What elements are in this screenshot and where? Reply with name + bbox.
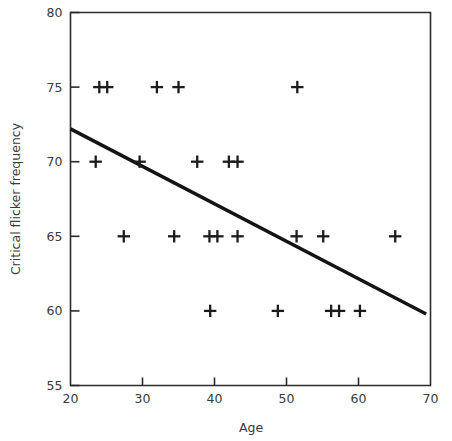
x-tick-label: 60 bbox=[351, 391, 367, 406]
x-tick-label: 50 bbox=[279, 391, 295, 406]
scatter-chart: 556065707580 203040506070 Age Critical f… bbox=[0, 0, 452, 441]
y-tick-label: 80 bbox=[47, 5, 63, 20]
x-tick-label: 70 bbox=[423, 391, 439, 406]
y-tick-label: 70 bbox=[47, 154, 63, 169]
y-tick-label: 55 bbox=[47, 378, 63, 393]
y-tick-label: 75 bbox=[47, 80, 63, 95]
y-tick-label: 60 bbox=[47, 303, 63, 318]
x-tick-label: 40 bbox=[207, 391, 223, 406]
y-tick-label: 65 bbox=[47, 229, 63, 244]
x-tick-label: 30 bbox=[135, 391, 151, 406]
y-axis-title: Critical flicker frequency bbox=[8, 122, 23, 275]
x-tick-label: 20 bbox=[63, 391, 79, 406]
chart-background bbox=[0, 0, 452, 441]
x-axis-title: Age bbox=[239, 420, 263, 435]
chart-canvas: 556065707580 203040506070 Age Critical f… bbox=[0, 0, 452, 441]
